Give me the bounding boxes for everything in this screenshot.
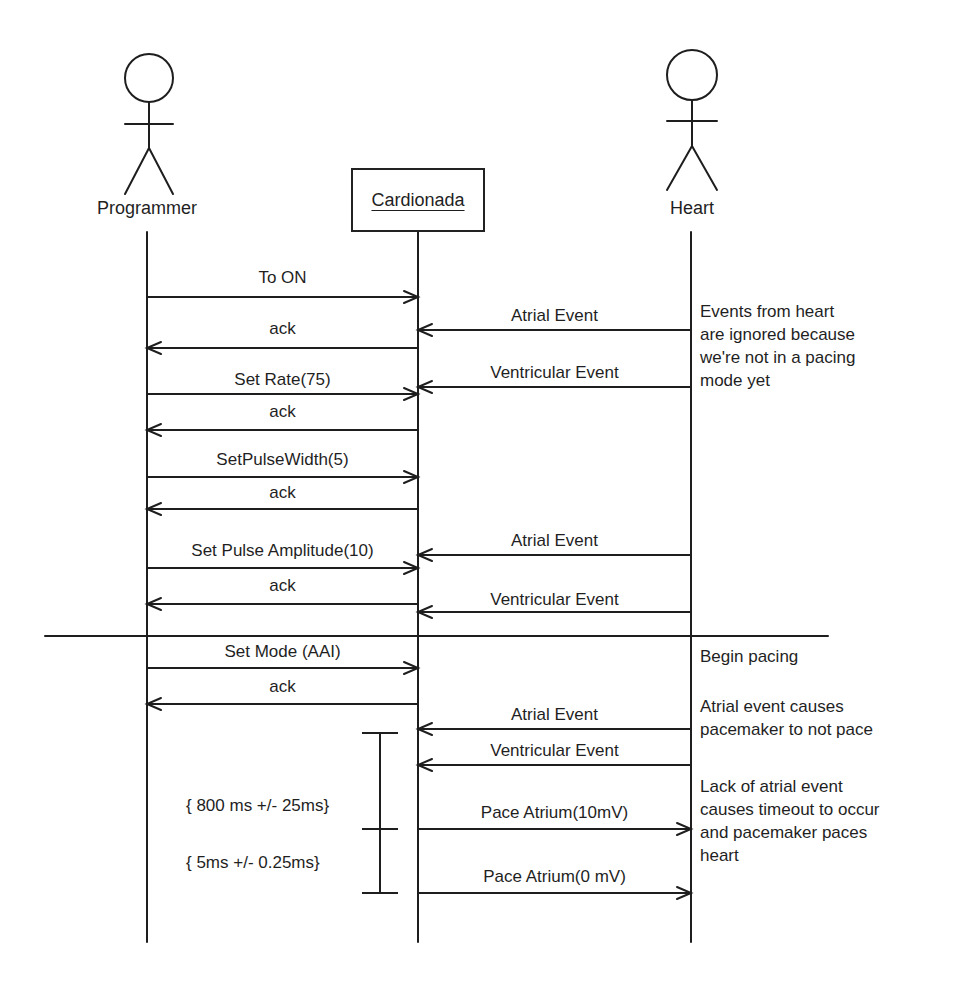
annotation-note: Lack of atrial eventcauses timeout to oc… xyxy=(700,775,880,867)
message-arrow xyxy=(147,424,418,436)
message-label: Atrial Event xyxy=(511,531,598,551)
note-line: Atrial event causes xyxy=(700,695,873,718)
note-line: causes timeout to occur xyxy=(700,798,880,821)
actor-label-programmer: Programmer xyxy=(97,198,197,218)
heart-actor-icon xyxy=(667,50,717,190)
timing-constraint-bracket xyxy=(362,733,398,829)
message-label: ack xyxy=(269,319,295,339)
message-label: Pace Atrium(10mV) xyxy=(481,803,628,823)
note-line: mode yet xyxy=(700,369,855,392)
message-arrow xyxy=(147,598,418,610)
message-arrow xyxy=(147,503,418,515)
message-arrow xyxy=(147,698,418,710)
note-line: pacemaker to not pace xyxy=(700,718,873,741)
message-label: SetPulseWidth(5) xyxy=(216,450,348,470)
message-label: Set Mode (AAI) xyxy=(224,642,340,662)
message-arrow xyxy=(147,662,418,674)
message-label: ack xyxy=(269,402,295,422)
message-label: Set Pulse Amplitude(10) xyxy=(191,541,373,561)
message-label: Ventricular Event xyxy=(490,363,619,383)
object-box-cardionada: Cardionada xyxy=(351,168,485,232)
timing-constraint-bracket xyxy=(362,829,398,893)
note-line: Begin pacing xyxy=(700,645,798,668)
object-label-cardionada: Cardionada xyxy=(371,190,464,211)
message-arrow xyxy=(147,291,418,303)
timing-constraint-label: { 5ms +/- 0.25ms} xyxy=(186,853,320,873)
message-arrow xyxy=(418,823,691,835)
message-label: Atrial Event xyxy=(511,306,598,326)
timing-constraint-label: { 800 ms +/- 25ms} xyxy=(186,796,329,816)
note-line: are ignored because xyxy=(700,323,855,346)
message-label: Ventricular Event xyxy=(490,741,619,761)
message-label: ack xyxy=(269,576,295,596)
actor-label-heart: Heart xyxy=(670,198,714,218)
message-label: To ON xyxy=(258,268,306,288)
message-arrow xyxy=(147,342,418,354)
annotation-note: Atrial event causespacemaker to not pace xyxy=(700,695,873,741)
annotation-note: Events from heartare ignored becausewe'r… xyxy=(700,300,855,392)
message-label: Ventricular Event xyxy=(490,590,619,610)
message-arrow xyxy=(147,562,418,574)
message-arrow xyxy=(418,887,691,899)
note-line: Events from heart xyxy=(700,300,855,323)
message-arrow xyxy=(147,471,418,483)
note-line: heart xyxy=(700,844,880,867)
note-line: and pacemaker paces xyxy=(700,821,880,844)
programmer-actor-icon xyxy=(125,54,173,194)
message-label: ack xyxy=(269,677,295,697)
annotation-note: Begin pacing xyxy=(700,645,798,668)
message-label: Set Rate(75) xyxy=(234,370,330,390)
message-label: ack xyxy=(269,483,295,503)
message-label: Atrial Event xyxy=(511,705,598,725)
note-line: Lack of atrial event xyxy=(700,775,880,798)
message-label: Pace Atrium(0 mV) xyxy=(483,867,626,887)
note-line: we're not in a pacing xyxy=(700,346,855,369)
